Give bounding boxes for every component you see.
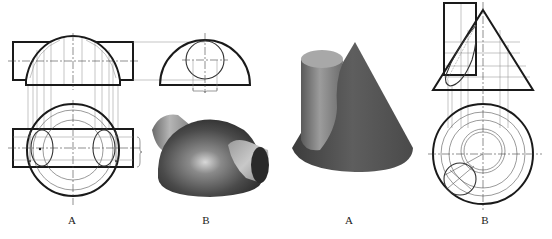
- label-left-b: B: [196, 214, 216, 226]
- label-right-b: B: [475, 214, 495, 226]
- left-b-3d-render: [152, 115, 269, 197]
- label-right-a: A: [339, 214, 359, 226]
- label-left-a: A: [62, 214, 82, 226]
- right-b-front-view: [433, 2, 533, 128]
- right-a-3d-render: [292, 42, 413, 172]
- figure-canvas: A B A B: [0, 0, 552, 239]
- right-b-top-view: [428, 96, 542, 210]
